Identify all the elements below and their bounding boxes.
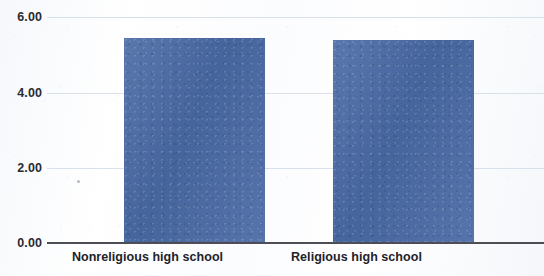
bar-texture — [124, 38, 265, 243]
bar-texture — [333, 40, 474, 243]
y-tick-label-0: 0.00 — [0, 236, 42, 250]
x-axis-line — [47, 242, 544, 244]
y-tick-label-4: 4.00 — [0, 86, 42, 100]
y-tick-label-2: 2.00 — [0, 161, 42, 175]
plot-area — [47, 0, 544, 243]
gridline-6 — [47, 17, 544, 18]
bar-nonreligious-high-school — [124, 38, 265, 243]
bar-religious-high-school — [333, 40, 474, 243]
bar-chart-screenshot: 6.00 4.00 2.00 0.00 Nonreligious high sc… — [0, 0, 544, 276]
x-tick-label-nonreligious-high-school: Nonreligious high school — [64, 250, 231, 264]
y-tick-label-6: 6.00 — [0, 10, 42, 24]
x-tick-label-religious-high-school: Religious high school — [273, 250, 440, 264]
